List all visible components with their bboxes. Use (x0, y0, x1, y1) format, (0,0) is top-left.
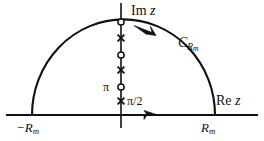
arc-contour-label: CRm (178, 36, 198, 52)
real-axis-arrowhead-icon (144, 110, 158, 119)
arc-arrowhead-icon (134, 26, 156, 36)
left-radius-label: −Rm (16, 121, 39, 136)
pole-pi-label: π (103, 81, 109, 93)
left-radius-label-subscript: m (33, 126, 39, 136)
arc-contour-label-base: C (178, 35, 187, 50)
marker-open-circle-2 (118, 52, 124, 58)
zero-pi-over-2-label: π/2 (127, 95, 142, 107)
right-radius-label-subscript: m (209, 126, 215, 136)
real-axis-label-variable: z (235, 93, 240, 108)
right-radius-label-base: R (201, 120, 209, 135)
marker-open-circle-top (118, 19, 124, 25)
imaginary-axis-label: Im z (131, 4, 156, 18)
real-axis-label: Re z (216, 94, 241, 108)
left-radius-label-base: −R (16, 120, 33, 135)
contour-diagram-svg (0, 0, 264, 141)
arc-contour-label-subscript: Rm (187, 42, 198, 52)
imaginary-axis-label-prefix: Im (131, 3, 147, 18)
right-radius-label: Rm (201, 121, 215, 136)
complex-contour-figure: Im z Re z CRm −Rm Rm π π/2 (0, 0, 264, 141)
marker-open-circle-pi (118, 84, 124, 90)
real-axis-label-prefix: Re (216, 93, 232, 108)
imaginary-axis-label-variable: z (150, 3, 155, 18)
